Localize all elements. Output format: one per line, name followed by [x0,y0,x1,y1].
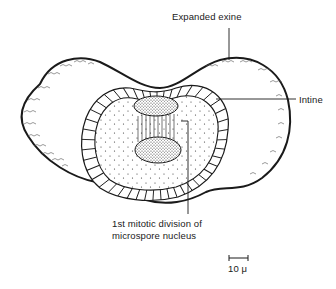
pollen-grain-diagram [0,0,336,289]
mitotic-division-label-line1: 1st mitotic division of [112,218,202,229]
scale-bar [229,255,248,261]
intine-label: Intine [299,94,323,105]
mitotic-division-label-line2: microspore nucleus [112,230,196,241]
expanded-exine-label: Expanded exine [172,11,242,22]
scale-bar-label: 10 μ [228,263,247,274]
